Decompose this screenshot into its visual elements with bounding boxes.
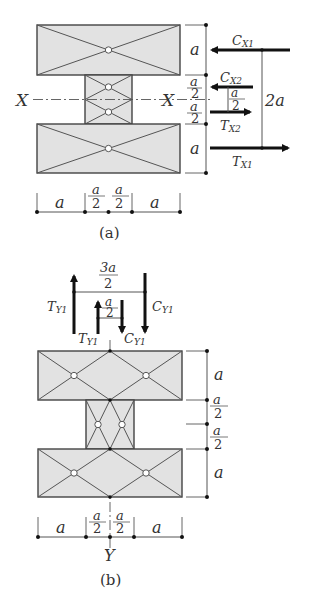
- force-arrows-a: CX1 TX1 2a CX2 TX2 a 2: [210, 33, 290, 170]
- svg-text:a: a: [231, 86, 238, 100]
- svg-text:a: a: [55, 193, 65, 212]
- svg-text:2: 2: [214, 406, 222, 421]
- svg-text:2: 2: [92, 196, 100, 211]
- svg-text:a: a: [115, 182, 123, 197]
- svg-text:a: a: [150, 193, 160, 212]
- label-cy1-outer: CY1: [152, 299, 174, 315]
- label-ty1-inner: TY1: [78, 331, 98, 347]
- figure-a: X X a a 2 a 2 a CX1: [14, 23, 290, 242]
- axis-label-y: Y: [104, 546, 116, 565]
- figure-b: 3a 2 a 2 TY1 CY1 TY1 CY1: [36, 260, 228, 589]
- svg-text:2: 2: [116, 521, 124, 536]
- centroid-marker: [105, 47, 111, 53]
- svg-text:2: 2: [93, 521, 101, 536]
- svg-text:a: a: [214, 365, 224, 384]
- horizontal-dimension-a: a a 2 a 2 a: [35, 182, 182, 214]
- svg-text:a: a: [92, 182, 100, 197]
- svg-text:2: 2: [104, 276, 112, 291]
- vertical-dimension-a: a a 2 a 2 a: [185, 23, 208, 175]
- svg-text:2: 2: [115, 196, 123, 211]
- svg-text:a: a: [214, 463, 224, 482]
- svg-text:3a: 3a: [100, 260, 116, 275]
- lever-2a: 2a: [264, 91, 285, 110]
- svg-text:2: 2: [232, 99, 240, 113]
- bottom-flange-b: [38, 449, 182, 497]
- axis-label-x-right: X: [160, 90, 175, 110]
- caption-b: (b): [100, 571, 121, 589]
- svg-text:a: a: [213, 423, 221, 438]
- top-flange-b: [38, 351, 182, 400]
- label-tx1: TX1: [232, 154, 253, 170]
- label-tx2: TX2: [220, 118, 241, 134]
- svg-text:a: a: [190, 139, 200, 158]
- label-cx1: CX1: [232, 33, 254, 49]
- label-cy1-inner: CY1: [124, 331, 146, 347]
- axis-label-x-left: X: [14, 90, 29, 110]
- svg-text:2: 2: [214, 437, 222, 452]
- svg-text:a: a: [213, 392, 221, 407]
- bottom-flange-a: [37, 124, 180, 173]
- svg-text:a: a: [152, 518, 162, 537]
- top-flange-a: [37, 25, 180, 75]
- label-cx2: CX2: [220, 70, 242, 86]
- svg-text:2: 2: [106, 306, 114, 320]
- label-ty1-outer: TY1: [47, 299, 67, 315]
- svg-text:a: a: [56, 518, 66, 537]
- caption-a: (a): [99, 224, 120, 242]
- diagram-canvas: X X a a 2 a 2 a CX1: [0, 0, 312, 592]
- force-arrows-b: 3a 2 a 2 TY1 CY1 TY1 CY1: [47, 260, 174, 347]
- svg-text:2: 2: [191, 111, 199, 126]
- svg-text:a: a: [190, 40, 200, 59]
- vertical-dimension-b: a a 2 a 2 a: [186, 349, 228, 499]
- web-b: [86, 400, 134, 449]
